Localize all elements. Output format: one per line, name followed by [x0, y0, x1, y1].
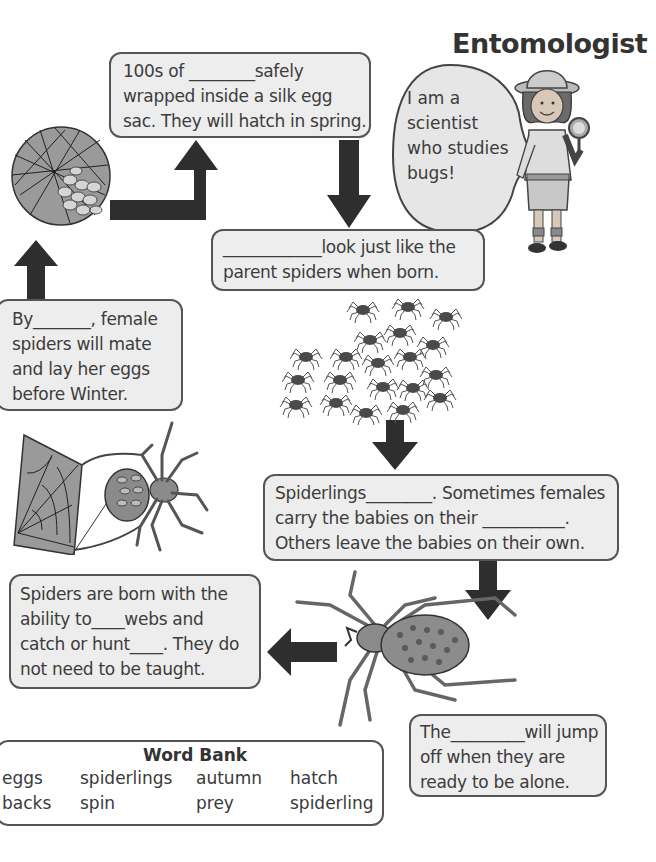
speech-bubble-text: I am a scientist who studies bugs! — [407, 86, 509, 186]
step-egg-sac-box: 100s of ________safely wrapped inside a … — [109, 52, 371, 138]
entomologist-girl-illustration — [505, 60, 605, 260]
word-bank-word: prey — [196, 793, 234, 813]
egg-sac-line-3: sac. They will hatch in spring. — [123, 109, 369, 134]
word-bank-title: Word Bank — [143, 745, 247, 765]
word-bank-word: backs — [2, 793, 51, 813]
word-bank-word: hatch — [290, 768, 338, 788]
speech-line-4: bugs! — [407, 161, 509, 186]
arrow-up-right-connector — [108, 138, 218, 228]
egg-sac-illustration — [10, 125, 112, 227]
autumn-line-3: and lay her eggs — [12, 357, 181, 382]
born-with-line-3: catch or hunt____. They do — [20, 632, 259, 657]
word-bank-word: spiderling — [290, 793, 374, 813]
autumn-line-4: before Winter. — [12, 382, 181, 407]
spiderlings-line-1: Spiderlings________. Sometimes females — [275, 481, 617, 506]
autumn-line-2: spiders will mate — [12, 332, 181, 357]
spiderlings-line-3: Others leave the babies on their own. — [275, 531, 617, 556]
spiderlings-line-2: carry the babies on their __________. — [275, 506, 617, 531]
egg-sac-line-1: 100s of ________safely — [123, 59, 369, 84]
egg-sac-line-2: wrapped inside a silk egg — [123, 84, 369, 109]
speech-line-3: who studies — [407, 136, 509, 161]
page-title: Entomologist — [452, 28, 647, 59]
jump-off-line-1: The_________will jump — [420, 720, 605, 745]
step-look-like-box: ____________look just like the parent sp… — [211, 229, 485, 291]
jump-off-line-3: ready to be alone. — [420, 770, 605, 795]
step-autumn-box: By_______, female spiders will mate and … — [0, 299, 183, 411]
word-bank-word: eggs — [2, 768, 43, 788]
word-bank-word: spin — [80, 793, 115, 813]
step-born-with-box: Spiders are born with the ability to____… — [9, 574, 261, 689]
arrow-down-2 — [372, 420, 420, 472]
arrow-down-1 — [325, 140, 373, 230]
look-like-line-2: parent spiders when born. — [223, 260, 483, 285]
born-with-line-4: not need to be taught. — [20, 657, 259, 682]
word-bank-word: spiderlings — [80, 768, 172, 788]
born-with-line-2: ability to____webs and — [20, 607, 259, 632]
autumn-line-1: By_______, female — [12, 307, 181, 332]
step-jump-off-box: The_________will jump off when they are … — [409, 714, 607, 797]
born-with-line-1: Spiders are born with the — [20, 582, 259, 607]
speech-line-2: scientist — [407, 111, 509, 136]
spider-with-web-illustration — [12, 415, 212, 555]
speech-line-1: I am a — [407, 86, 509, 111]
spiderlings-cluster-illustration — [278, 295, 468, 425]
arrow-up-left — [13, 240, 59, 300]
jump-off-line-2: off when they are — [420, 745, 605, 770]
word-bank-word: autumn — [196, 768, 262, 788]
look-like-line-1: ____________look just like the — [223, 235, 483, 260]
step-spiderlings-hatch-box: Spiderlings________. Sometimes females c… — [263, 474, 619, 561]
